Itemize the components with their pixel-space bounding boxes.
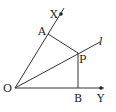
label-b: B xyxy=(74,92,82,105)
label-x: X xyxy=(50,8,58,21)
label-a: A xyxy=(37,25,47,38)
label-o: O xyxy=(3,82,12,95)
segment-ap xyxy=(48,34,78,53)
bisector-line-l xyxy=(15,42,100,88)
label-y: Y xyxy=(96,92,105,105)
geometry-diagram: X A P l O B Y xyxy=(0,0,116,112)
label-p: P xyxy=(79,53,87,66)
point-x-dot xyxy=(59,12,63,16)
point-y-dot xyxy=(99,86,103,90)
label-l: l xyxy=(99,35,103,48)
